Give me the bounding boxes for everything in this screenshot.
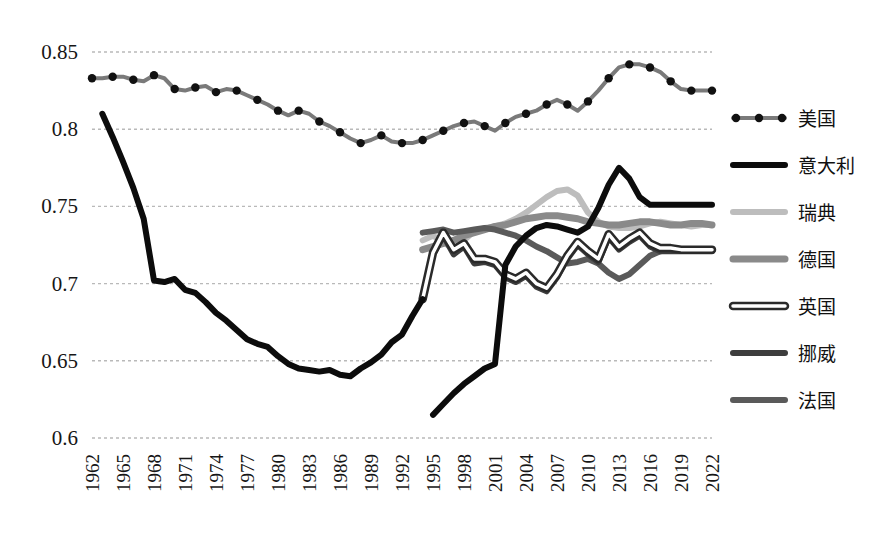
series-marker-美国: [377, 131, 385, 139]
legend-label: 意大利: [798, 155, 855, 177]
x-tick-label: 1983: [299, 454, 320, 492]
x-tick-label: 1989: [361, 454, 382, 492]
y-tick-label: 0.75: [41, 194, 78, 218]
x-tick-label: 2001: [485, 454, 506, 492]
series-marker-美国: [604, 74, 612, 82]
series-marker-美国: [687, 86, 695, 94]
y-tick-label: 0.6: [52, 426, 78, 450]
series-marker-美国: [315, 117, 323, 125]
x-tick-label: 1992: [392, 454, 413, 492]
series-marker-美国: [708, 86, 716, 94]
series-line-意大利: [433, 168, 712, 415]
series-marker-美国: [274, 106, 282, 114]
series-marker-美国: [480, 122, 488, 130]
legend-label: 挪威: [798, 343, 836, 365]
y-axis-tick-labels: 0.850.80.750.70.650.6: [41, 40, 78, 450]
y-tick-label: 0.85: [41, 40, 78, 64]
series-marker-美国: [584, 97, 592, 105]
legend-marker: [755, 114, 763, 122]
series-marker-美国: [666, 77, 674, 85]
series-marker-美国: [336, 128, 344, 136]
x-tick-label: 1995: [423, 454, 444, 492]
y-tick-label: 0.8: [52, 117, 78, 141]
series-marker-美国: [625, 60, 633, 68]
x-tick-label: 1974: [206, 454, 227, 493]
legend-item-瑞典[interactable]: 瑞典: [733, 202, 836, 224]
x-tick-label: 1977: [237, 454, 258, 492]
series-marker-美国: [501, 119, 509, 127]
series-marker-美国: [418, 136, 426, 144]
series-marker-美国: [542, 100, 550, 108]
x-tick-label: 1998: [454, 454, 475, 492]
series-marker-美国: [170, 85, 178, 93]
series-marker-美国: [212, 88, 220, 96]
series-marker-美国: [150, 71, 158, 79]
legend-item-意大利[interactable]: 意大利: [733, 155, 855, 177]
x-tick-label: 2016: [640, 454, 661, 492]
x-tick-label: 1971: [175, 454, 196, 492]
legend-label: 德国: [798, 249, 836, 271]
x-tick-label: 2010: [578, 454, 599, 492]
series-marker-美国: [356, 139, 364, 147]
legend-label: 英国: [798, 296, 836, 318]
series-marker-美国: [294, 106, 302, 114]
series-marker-美国: [253, 96, 261, 104]
x-tick-label: 2013: [609, 454, 630, 492]
series-marker-美国: [522, 110, 530, 118]
series-marker-美国: [232, 86, 240, 94]
legend-label: 瑞典: [798, 202, 836, 224]
x-tick-label: 2022: [702, 454, 723, 492]
series-line-意大利: [102, 114, 422, 376]
x-tick-label: 1962: [82, 454, 103, 492]
legend-item-美国[interactable]: 美国: [732, 108, 836, 130]
x-tick-label: 1986: [330, 454, 351, 492]
legend-marker: [732, 114, 740, 122]
x-tick-label: 1965: [113, 454, 134, 492]
chart-legend: 美国意大利瑞典德国英国挪威法国: [732, 108, 855, 412]
legend-label: 美国: [798, 108, 836, 130]
series-line-美国: [92, 64, 712, 143]
series-marker-美国: [439, 127, 447, 135]
series-marker-美国: [563, 100, 571, 108]
series-marker-美国: [108, 73, 116, 81]
series-marker-美国: [460, 119, 468, 127]
y-tick-label: 0.7: [52, 272, 78, 296]
plot-series: [88, 60, 716, 415]
legend-item-德国[interactable]: 德国: [733, 249, 836, 271]
legend-label: 法国: [798, 390, 836, 412]
series-marker-美国: [191, 83, 199, 91]
x-tick-label: 1980: [268, 454, 289, 492]
x-tick-label: 2004: [516, 454, 537, 493]
y-tick-label: 0.65: [41, 349, 78, 373]
legend-item-英国[interactable]: 英国: [733, 296, 836, 318]
series-marker-美国: [129, 76, 137, 84]
x-tick-label: 1968: [144, 454, 165, 492]
legend-item-法国[interactable]: 法国: [733, 390, 836, 412]
series-marker-美国: [88, 74, 96, 82]
legend-marker: [778, 114, 786, 122]
legend-item-挪威[interactable]: 挪威: [733, 343, 836, 365]
x-axis-tick-labels: 1962196519681971197419771980198319861989…: [82, 454, 723, 493]
x-tick-label: 2019: [671, 454, 692, 492]
x-tick-label: 2007: [547, 454, 568, 492]
series-marker-美国: [646, 63, 654, 71]
line-chart: 0.850.80.750.70.650.6 196219651968197119…: [0, 0, 893, 539]
series-marker-美国: [398, 139, 406, 147]
chart-container: 0.850.80.750.70.650.6 196219651968197119…: [0, 0, 893, 539]
